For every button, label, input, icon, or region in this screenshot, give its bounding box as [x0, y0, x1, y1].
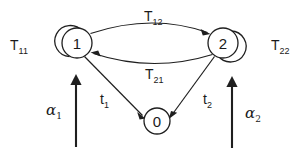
edge-T21-path — [94, 54, 213, 64]
node-2[interactable]: 2 — [208, 28, 238, 58]
state-transition-diagram: 1 2 0 T11 T22 T12 T21 t1 t2 — [0, 0, 308, 153]
edge-label-alpha1: α1 — [46, 101, 62, 121]
edge-label-T22: T22 — [271, 37, 290, 56]
edge-label-T12: T12 — [144, 8, 163, 27]
edge-label-T11: T11 — [10, 37, 28, 56]
edge-T21-arrowhead — [91, 51, 101, 57]
edge-label-alpha1-sub: 1 — [56, 111, 62, 121]
edge-alpha2-arrowhead — [226, 76, 237, 87]
edge-label-alpha2-sub: 2 — [255, 114, 261, 124]
edge-T21 — [91, 51, 213, 64]
edge-label-t2-sub: 2 — [207, 100, 212, 110]
edge-label-t2: t2 — [203, 91, 212, 110]
edge-T12 — [91, 23, 211, 35]
edge-label-T21-sub: 21 — [154, 75, 164, 85]
edge-label-alpha2-base: α — [245, 104, 255, 122]
edge-alpha2 — [226, 76, 237, 148]
edge-label-T12-sub: 12 — [153, 17, 163, 27]
edge-T12-path — [91, 23, 208, 34]
node-1-label: 1 — [73, 35, 81, 52]
edge-alpha1-arrowhead — [70, 74, 81, 85]
edge-T12-arrowhead — [201, 29, 211, 35]
edge-label-alpha2: α2 — [245, 104, 261, 124]
edge-t1 — [85, 57, 146, 120]
diagram-canvas: 1 2 0 T11 T22 T12 T21 t1 t2 — [0, 0, 308, 153]
node-2-label: 2 — [219, 35, 227, 52]
edge-alpha1 — [70, 74, 81, 147]
node-0[interactable]: 0 — [144, 108, 170, 134]
edge-label-T21: T21 — [145, 66, 164, 85]
edge-label-T22-sub: 22 — [280, 46, 290, 56]
node-1[interactable]: 1 — [62, 28, 92, 58]
edge-t1-path — [85, 57, 143, 116]
edge-label-T11-sub: 11 — [19, 46, 28, 56]
node-0-label: 0 — [153, 113, 161, 130]
edge-label-t1-sub: 1 — [104, 100, 109, 110]
edge-label-t1: t1 — [100, 91, 109, 110]
edge-label-alpha1-base: α — [46, 101, 56, 119]
